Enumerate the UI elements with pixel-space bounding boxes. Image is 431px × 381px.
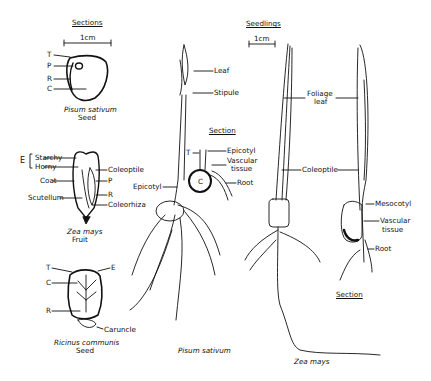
pisum-section-label-c: C xyxy=(198,178,203,186)
botanical-figure: Sections 1cm T P R C Pisum sativum Seed … xyxy=(0,0,431,381)
pisum-section-label-root: Root xyxy=(237,179,253,187)
zea-section-heading: Section xyxy=(336,291,363,299)
pisum-section-label-epicotyl: Epicotyl xyxy=(227,147,256,155)
ricinus-label-c: C xyxy=(46,279,51,287)
ricinus-label-caruncle: Caruncle xyxy=(104,326,136,334)
sections-heading: Sections xyxy=(72,19,102,27)
zea-label-starchy: Starchy xyxy=(35,154,62,162)
zea-seedling-species: Zea mays xyxy=(294,358,329,366)
zea-label-scutellum: Scutellum xyxy=(28,194,64,202)
zea-label-root: Root xyxy=(375,245,391,253)
pisum-section-label-tissue: tissue xyxy=(231,165,252,173)
zea-label-mesocotyl: Mesocotyl xyxy=(375,200,411,208)
ricinus-label-r: R xyxy=(46,307,51,315)
zea-label-horny: Horny xyxy=(35,163,56,171)
pisum-seed-label-c: C xyxy=(47,85,52,93)
zea-fruit-part: Fruit xyxy=(72,236,88,244)
pisum-seed-label-t: T xyxy=(47,51,51,59)
zea-section-drawing xyxy=(340,45,379,280)
zea-label-p: P xyxy=(108,177,112,185)
pisum-seed-part: Seed xyxy=(78,114,96,122)
zea-endosperm-bracket-label: E xyxy=(20,157,25,165)
seedlings-scale-label: 1cm xyxy=(254,35,270,43)
ricinus-label-t: T xyxy=(46,264,50,272)
pisum-seed-label-r: R xyxy=(47,75,52,83)
pisum-section-heading: Section xyxy=(209,127,236,135)
pisum-section-label-t: T xyxy=(186,149,190,157)
zea-label-coleorhiza: Coleorhiza xyxy=(108,201,146,209)
ricinus-seed-drawing xyxy=(52,268,110,329)
zea-label-tissue: tissue xyxy=(382,226,403,234)
pisum-seed-drawing xyxy=(54,55,108,100)
pisum-label-stipule: Stipule xyxy=(214,89,239,97)
zea-seedling-label-coleoptile: Coleoptile xyxy=(302,166,338,174)
seedlings-heading: Seedlings xyxy=(246,20,281,28)
ricinus-label-e: E xyxy=(111,264,116,272)
zea-label-leaf: leaf xyxy=(314,98,327,106)
zea-label-r: R xyxy=(108,191,113,199)
figure-drawings xyxy=(0,0,431,381)
ricinus-seed-part: Seed xyxy=(76,347,94,355)
sections-scale-label: 1cm xyxy=(80,34,96,42)
zea-label-vascular: Vascular xyxy=(380,217,410,225)
zea-label-coleoptile: Coleoptile xyxy=(108,166,144,174)
zea-label-coat: Coat xyxy=(40,177,57,185)
pisum-label-leaf: Leaf xyxy=(214,67,229,75)
pisum-seed-label-p: P xyxy=(47,62,51,70)
pisum-label-epicotyl: Epicotyl xyxy=(133,183,162,191)
pisum-seedling-species: Pisum sativum xyxy=(178,347,231,355)
